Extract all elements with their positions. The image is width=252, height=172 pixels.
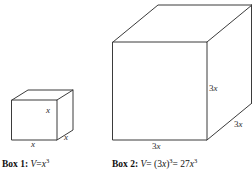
box1-caption-label: Box 1: [2, 159, 28, 169]
small-cube-depth-label: x [64, 133, 68, 142]
small-cube-width-label: x [31, 140, 35, 149]
box1-formula: V=x3 [31, 159, 50, 169]
figure-canvas: x x x 3x 3x 3x Box 1: V=x3 Box 2: V= (3x… [0, 0, 252, 172]
large-cube-width-label: 3x [152, 142, 161, 151]
large-cube-shape [113, 5, 252, 140]
box1-caption: Box 1: V=x3 [2, 158, 49, 170]
large-cube-depth-label: 3x [234, 120, 243, 129]
small-cube-height-label: x [46, 106, 50, 115]
small-cube-front-face [12, 100, 57, 140]
box2-formula: V= (3x)3= 27x3 [141, 159, 198, 169]
large-cube-height-label: 3x [209, 84, 218, 93]
box2-caption: Box 2: V= (3x)3= 27x3 [112, 158, 197, 170]
large-cube-front-face [113, 42, 207, 140]
box2-caption-label: Box 2: [112, 159, 138, 169]
